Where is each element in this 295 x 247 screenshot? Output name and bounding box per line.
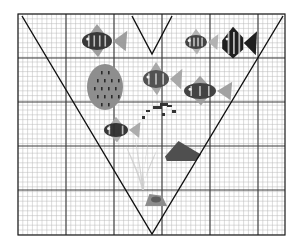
fish-striped-upper-left-stripe (88, 35, 90, 46)
sponge-speckled-large-speck (97, 95, 99, 98)
fish-small-pale-upper-right-stripe (197, 38, 199, 47)
sponge-speckled-large-speck (111, 79, 113, 82)
snail-bottom-body (151, 196, 161, 202)
fish-diamond-center-stripe (155, 73, 157, 84)
fish-diamond-center-stripe (162, 73, 164, 84)
debris-center-speck (172, 110, 176, 113)
fish-striped-upper-left-stripe (99, 35, 101, 46)
fish-banded-right-mid-stripe (208, 86, 210, 96)
sponge-speckled-large-body (87, 64, 123, 110)
sponge-speckled-large (87, 64, 123, 110)
sponge-speckled-large-speck (111, 95, 113, 98)
fish-angel-upper-right-stripe (233, 32, 235, 54)
fish-small-pale-upper-right-eye (188, 39, 191, 42)
fish-banded-right-mid-eye (189, 88, 192, 91)
sponge-speckled-large-speck (101, 71, 103, 74)
sponge-speckled-large-speck (104, 79, 106, 82)
fish-small-pale-upper-right-stripe (193, 38, 195, 47)
aquarium-graph-illustration (0, 0, 295, 247)
debris-center-speck (142, 116, 145, 119)
sponge-speckled-large-speck (118, 95, 120, 98)
fish-angel-upper-right-stripe (238, 32, 240, 54)
fish-diamond-center-stripe (148, 73, 150, 84)
sponge-speckled-large-speck (104, 95, 106, 98)
scene-canvas (0, 0, 295, 247)
sponge-speckled-large-speck (94, 87, 96, 90)
fish-striped-upper-left-eye (86, 38, 89, 41)
fish-striped-upper-left-body (82, 32, 112, 50)
debris-center-speck (146, 110, 150, 112)
fish-small-left-mid-body (104, 123, 128, 137)
fish-striped-upper-left-stripe (104, 35, 106, 46)
fish-small-left-mid-stripe (122, 126, 124, 135)
sponge-speckled-large-speck (108, 103, 110, 106)
fish-small-pale-upper-right-body (185, 35, 207, 49)
sponge-speckled-large-speck (101, 103, 103, 106)
fish-angel-upper-right-stripe (228, 32, 230, 54)
fish-small-left-mid-stripe (109, 126, 111, 135)
fish-banded-right-mid-stripe (199, 86, 201, 96)
fish-small-pale-upper-right-stripe (189, 38, 191, 47)
sponge-speckled-large-speck (108, 87, 110, 90)
debris-center-speck (162, 113, 165, 116)
fish-small-left-mid-eye (107, 127, 110, 130)
fish-small-pale-upper-right-stripe (201, 38, 203, 47)
fish-angel-upper-right-eye (226, 38, 229, 41)
fish-diamond-center-eye (146, 76, 149, 79)
sponge-speckled-large-speck (118, 79, 120, 82)
sponge-speckled-large-speck (101, 87, 103, 90)
debris-center-speck (160, 103, 168, 106)
fish-banded-right-mid-stripe (190, 86, 192, 96)
debris-center-speck (153, 106, 162, 109)
debris-center-speck (167, 105, 172, 107)
sponge-speckled-large-speck (97, 79, 99, 82)
sponge-speckled-large-speck (108, 71, 110, 74)
sponge-speckled-large-speck (115, 87, 117, 90)
fish-striped-upper-left-stripe (93, 35, 95, 46)
